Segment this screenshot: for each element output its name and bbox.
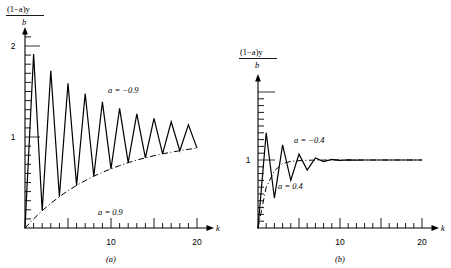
panel-a-y-ticklabel-2: 2 <box>11 41 16 51</box>
panel-b-ylabel-denominator: b <box>255 60 259 70</box>
figure-container: (1−a)y b k <box>0 0 451 268</box>
panel-b-ylabel: (1−a)y b <box>239 47 277 70</box>
panel-a-y-axis-arrowhead <box>22 27 28 35</box>
panel-a-svg: (1−a)y b k <box>0 0 228 268</box>
panel-b-ylabel-numerator: (1−a)y <box>240 47 263 57</box>
panel-b-curve-a-positive <box>258 160 422 228</box>
panel-b-x-axis-arrowhead <box>432 225 440 231</box>
panel-a-annotation-a-negative: a = −0.9 <box>108 85 139 95</box>
panel-b-xlabel: k <box>441 223 445 233</box>
panel-a-curve-a-negative <box>25 54 197 228</box>
panel-a: (1−a)y b k <box>0 0 228 268</box>
panel-a-ylabel: (1−a)y b <box>6 4 44 27</box>
panel-a-x-ticklabel-10: 10 <box>106 237 116 247</box>
panel-a-annotation-a-positive: a = 0.9 <box>98 207 124 217</box>
panel-a-x-axis-arrowhead <box>207 225 215 231</box>
panel-a-y-ticklabel-1: 1 <box>11 132 16 142</box>
panel-b: (1−a)y b k <box>223 0 451 268</box>
panel-a-ylabel-numerator: (1−a)y <box>7 4 30 14</box>
panel-a-caption: (a) <box>106 254 116 264</box>
panel-a-x-ticks <box>34 218 197 228</box>
panel-b-x-ticks <box>266 218 422 228</box>
panel-b-annotation-a-negative: a = −0.4 <box>294 135 325 145</box>
panel-b-x-ticklabel-20: 20 <box>417 237 427 247</box>
panel-b-x-ticklabel-10: 10 <box>335 237 345 247</box>
panel-a-x-ticklabel-20: 20 <box>192 237 202 247</box>
panel-b-y-axis-arrowhead <box>255 74 261 82</box>
panel-b-svg: (1−a)y b k <box>223 0 451 268</box>
panel-a-xlabel: k <box>216 223 220 233</box>
panel-a-ylabel-denominator: b <box>22 17 26 27</box>
panel-b-y-ticklabel-1: 1 <box>246 155 251 165</box>
panel-b-annotation-a-positive: a = 0.4 <box>278 181 304 191</box>
panel-b-caption: (b) <box>335 254 345 264</box>
